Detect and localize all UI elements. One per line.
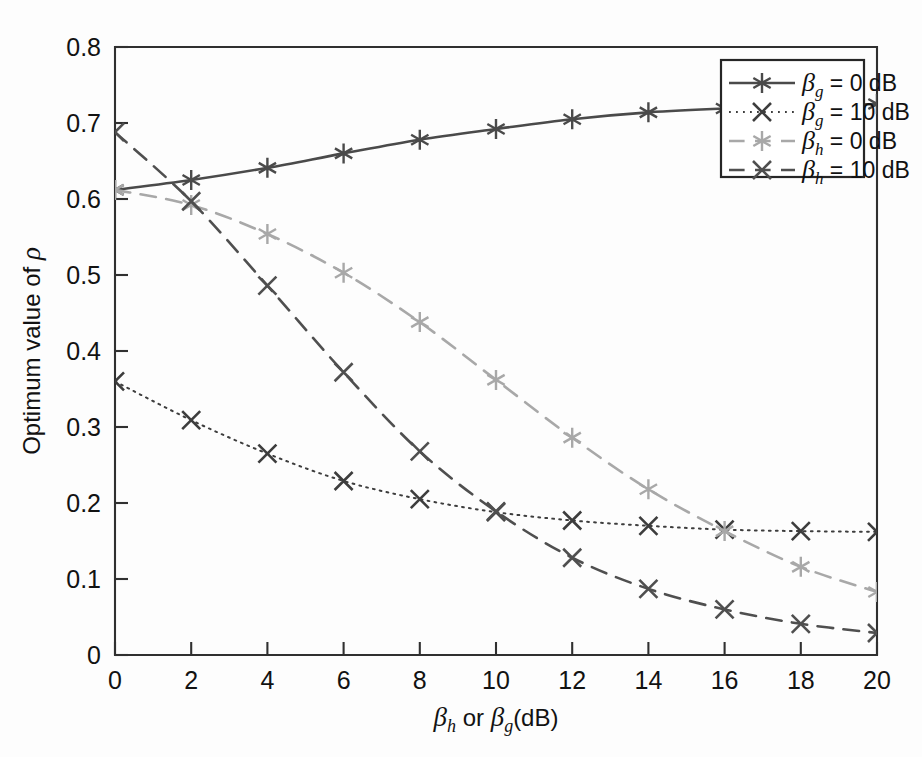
data-point-marker (335, 263, 352, 283)
data-point-marker (335, 363, 353, 381)
figure-container: 00.10.20.30.40.50.60.70.8 02468101214161… (0, 0, 922, 757)
x-tick-label: 2 (184, 666, 198, 694)
x-axis-tick-labels: 02468101214161820 (108, 666, 891, 694)
data-point-marker (487, 370, 504, 390)
data-point-marker (411, 490, 429, 508)
series-line (115, 190, 877, 592)
y-tick-label: 0.3 (66, 413, 101, 441)
data-point-marker (411, 312, 428, 332)
data-point-marker (259, 224, 276, 244)
y-tick-label: 0.4 (66, 337, 101, 365)
data-point-marker (563, 549, 581, 567)
series-beta-h-0db (106, 180, 885, 602)
x-tick-label: 18 (787, 666, 815, 694)
data-point-marker (792, 522, 810, 540)
data-point-marker (182, 411, 200, 429)
data-point-marker (868, 582, 885, 602)
y-tick-label: 0.2 (66, 489, 101, 517)
x-tick-label: 16 (711, 666, 739, 694)
x-tick-label: 12 (558, 666, 586, 694)
data-point-marker (258, 277, 276, 295)
series-beta-g-10db (106, 372, 886, 540)
data-point-marker (411, 442, 429, 460)
data-point-marker (716, 600, 734, 618)
svg-text:βh or βg(dB): βh or βg(dB) (433, 702, 559, 736)
x-tick-label: 10 (482, 666, 510, 694)
y-tick-label: 0.8 (66, 33, 101, 61)
series-line (115, 381, 877, 531)
y-axis-title: Optimum value of ρ (16, 247, 46, 455)
chart-canvas: 00.10.20.30.40.50.60.70.8 02468101214161… (0, 0, 922, 757)
y-tick-label: 0 (87, 641, 101, 669)
x-axis-title: βh or βg(dB) (433, 702, 559, 736)
data-point-marker (640, 479, 657, 499)
data-point-marker (564, 428, 581, 448)
x-axis-ticks (115, 642, 877, 655)
data-point-marker (258, 445, 276, 463)
x-tick-label: 8 (413, 666, 427, 694)
y-tick-label: 0.1 (66, 565, 101, 593)
y-tick-label: 0.6 (66, 185, 101, 213)
data-point-marker (183, 195, 200, 215)
x-tick-label: 0 (108, 666, 122, 694)
svg-text:Optimum value of ρ: Optimum value of ρ (16, 247, 46, 455)
x-tick-label: 6 (337, 666, 351, 694)
x-tick-label: 14 (634, 666, 662, 694)
y-tick-label: 0.5 (66, 261, 101, 289)
y-axis-tick-labels: 00.10.20.30.40.50.60.70.8 (66, 33, 101, 669)
x-tick-label: 20 (863, 666, 891, 694)
y-tick-label: 0.7 (66, 109, 101, 137)
data-point-marker (792, 557, 809, 577)
data-point-marker (335, 472, 353, 490)
data-point-marker (639, 580, 657, 598)
legend[interactable]: βg = 0 dBβg = 10 dBβh = 0 dBβh = 10 dB (721, 60, 910, 188)
x-tick-label: 4 (260, 666, 274, 694)
